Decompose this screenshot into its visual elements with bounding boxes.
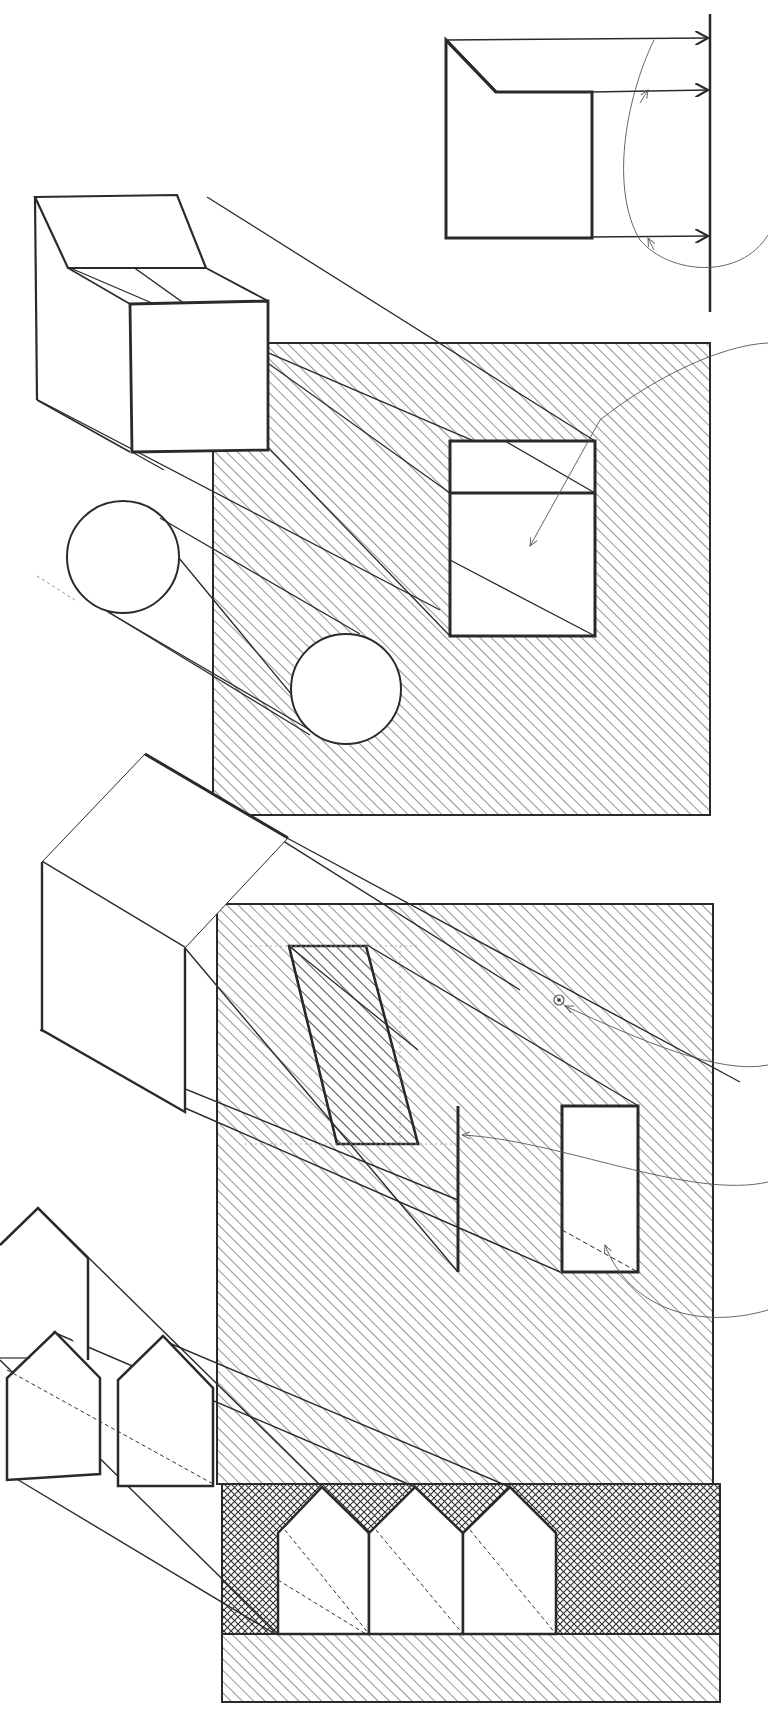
block-front-face — [130, 301, 268, 452]
hatched-ground-band — [222, 1634, 720, 1702]
stepped-block-outline — [446, 40, 592, 238]
sloped-top-face — [35, 195, 206, 268]
panel-1 — [35, 195, 768, 815]
window-opening — [450, 441, 595, 636]
elevation-top — [446, 14, 768, 312]
cylinder-circle — [67, 501, 179, 613]
cylinder-shadow-circle — [291, 634, 401, 744]
shadow-projection-diagram — [0, 0, 768, 1729]
window-opening — [562, 1106, 638, 1272]
